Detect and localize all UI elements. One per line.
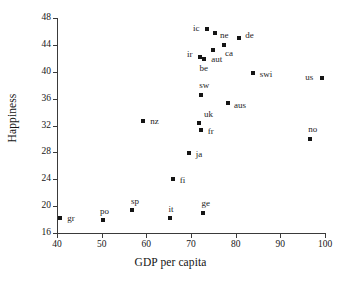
data-point-label: fr [208,127,214,136]
y-tick-label: 32 [31,121,51,131]
x-tick-label: 70 [179,240,203,250]
data-point-label: gr [67,214,75,223]
data-point [197,121,201,125]
data-point-label: ic [193,24,200,33]
x-axis-title: GDP per capita [0,256,341,268]
data-point-label: us [305,73,313,82]
x-tick [57,234,58,238]
data-point [58,216,62,220]
x-tick-label: 80 [224,240,248,250]
data-point [222,43,226,47]
x-tick-label: 60 [134,240,158,250]
data-point [211,48,215,52]
data-point [202,57,206,61]
data-point [237,36,241,40]
x-tick [191,234,192,238]
data-point [101,218,105,222]
data-point [205,27,209,31]
data-point [201,211,205,215]
x-tick-label: 40 [45,240,69,250]
data-point [199,93,203,97]
data-point-label: sp [131,197,139,206]
data-point-label: aus [234,101,246,110]
y-tick-label: 40 [31,67,51,77]
x-tick [102,234,103,238]
data-point-label: be [200,64,209,73]
data-point-label: ge [202,199,211,208]
data-point-label: uk [204,110,213,119]
x-tick [236,234,237,238]
x-tick [280,234,281,238]
y-tick-label: 36 [31,94,51,104]
y-tick-label: 48 [31,13,51,23]
x-tick-label: 90 [268,240,292,250]
data-point [213,31,217,35]
y-tick-label: 20 [31,201,51,211]
data-point-label: ja [196,150,203,159]
y-tick-label: 44 [31,40,51,50]
data-point [168,216,172,220]
scatter-plot-figure: 162024283236404448 405060708090100 Happi… [0,0,341,283]
data-point [308,137,312,141]
data-point-label: no [308,125,317,134]
x-tick-label: 100 [313,240,337,250]
data-point [199,128,203,132]
data-point-label: sw [199,81,209,90]
x-tick [146,234,147,238]
data-point-label: ne [220,31,229,40]
data-point-label: it [168,205,173,214]
data-point [171,177,175,181]
data-point [251,71,255,75]
data-point-label: aut [211,55,222,64]
data-point [130,208,134,212]
data-point-label: nz [150,117,159,126]
data-point-label: po [100,207,109,216]
data-point-label: ir [187,50,193,59]
data-point [226,101,230,105]
y-tick-label: 28 [31,147,51,157]
data-point [320,76,324,80]
data-point [141,119,145,123]
data-point-label: fi [180,176,186,185]
y-tick-label: 16 [31,228,51,238]
x-tick [325,234,326,238]
data-point-label: ca [225,49,233,58]
y-tick-label: 24 [31,174,51,184]
data-point [187,151,191,155]
x-tick-label: 50 [90,240,114,250]
y-axis-title: Happiness [6,73,18,163]
data-point-label: swi [260,70,273,79]
data-point-label: de [245,31,254,40]
